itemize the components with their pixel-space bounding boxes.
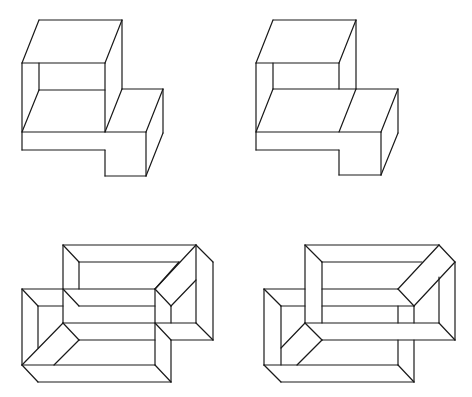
- edge-line: [63, 289, 79, 306]
- edge-line: [22, 20, 39, 63]
- edge-line: [381, 89, 398, 132]
- edge-line: [155, 365, 171, 382]
- edge-line: [264, 365, 281, 382]
- edge-line: [281, 323, 305, 348]
- edge-line: [398, 365, 414, 382]
- edge-line: [155, 262, 179, 289]
- edge-line: [54, 340, 79, 365]
- edge-line: [63, 323, 79, 340]
- edge-line: [196, 245, 213, 262]
- figure-top-right: [256, 20, 398, 175]
- edge-line: [22, 90, 39, 132]
- edge-line: [171, 280, 196, 306]
- edge-line: [381, 133, 398, 175]
- edge-line: [398, 289, 414, 306]
- edge-line: [22, 323, 63, 365]
- figure-top-left: [22, 20, 163, 176]
- edge-line: [146, 133, 163, 176]
- edge-line: [63, 245, 79, 262]
- edge-line: [155, 289, 171, 306]
- edge-line: [414, 262, 455, 306]
- edge-line: [339, 89, 356, 132]
- edge-line: [256, 20, 273, 63]
- edge-line: [105, 89, 122, 132]
- edge-line: [22, 289, 38, 306]
- edge-line: [297, 340, 322, 365]
- edge-line: [146, 89, 163, 132]
- edge-line: [305, 245, 322, 262]
- edge-line: [22, 365, 38, 382]
- edge-line: [398, 245, 439, 289]
- edge-line: [105, 20, 122, 63]
- diagram-canvas: [0, 0, 472, 397]
- edge-line: [155, 323, 171, 340]
- edge-line: [439, 245, 455, 262]
- edge-line: [196, 323, 213, 340]
- edge-line: [339, 20, 356, 63]
- edge-line: [256, 89, 273, 132]
- edge-line: [264, 289, 281, 306]
- edge-line: [439, 323, 455, 340]
- edge-line: [305, 323, 322, 340]
- figure-bottom-right: [264, 245, 455, 382]
- figure-bottom-left: [22, 245, 213, 382]
